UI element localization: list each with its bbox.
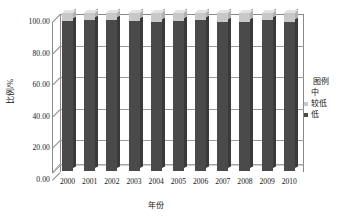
legend-item-label: 低 — [311, 109, 319, 120]
legend-marker-icon — [304, 102, 308, 106]
bar-segment-较低[interactable] — [84, 13, 95, 20]
legend-item[interactable]: 低 — [304, 109, 348, 120]
bar-segment-face — [173, 21, 184, 171]
bar-segment-低[interactable] — [84, 20, 95, 171]
bar-segment-face — [195, 13, 206, 20]
bar-segment-face — [129, 13, 140, 21]
bar-segment-side — [206, 16, 209, 168]
bar-segment-side — [184, 17, 187, 168]
bar-column[interactable] — [262, 13, 275, 171]
bar-segment-较低[interactable] — [239, 13, 250, 22]
bar-segment-较低[interactable] — [195, 13, 206, 20]
bar-segment-较低[interactable] — [129, 13, 140, 21]
bar-segment-face — [284, 13, 295, 22]
bar-segment-side — [140, 16, 143, 168]
bar-segment-低[interactable] — [262, 20, 273, 171]
bar-segment-较低[interactable] — [62, 13, 73, 21]
bar-segment-较低[interactable] — [106, 13, 117, 20]
y-axis-title: 比例/% — [4, 66, 15, 118]
bar-column[interactable] — [195, 13, 208, 171]
bar-segment-face — [239, 22, 250, 171]
bar-segment-side — [95, 15, 98, 168]
bar-segment-face — [106, 20, 117, 171]
bar-column[interactable] — [151, 13, 164, 171]
bar-column[interactable] — [173, 13, 186, 171]
legend-item-label: 较低 — [311, 98, 327, 109]
bar-segment-side — [117, 16, 120, 168]
bar-series-group — [52, 14, 304, 180]
bar-segment-face — [84, 20, 95, 171]
x-axis-tick-label: 2010 — [276, 177, 302, 186]
bar-segment-face — [151, 13, 162, 22]
bar-segment-低[interactable] — [217, 22, 228, 171]
bar-segment-face — [195, 20, 206, 171]
bar-segment-side — [250, 17, 253, 168]
bar-segment-低[interactable] — [106, 20, 117, 171]
y-axis-tick-label: 0.00 — [4, 176, 50, 184]
bar-segment-face — [151, 22, 162, 171]
chart-3d-stacked-column: 0.0020.0040.0060.0080.00100.00 比例/% 2000… — [0, 0, 348, 220]
bar-segment-较低[interactable] — [151, 13, 162, 22]
bar-segment-face — [262, 20, 273, 171]
bar-column[interactable] — [84, 13, 97, 171]
bar-segment-face — [284, 22, 295, 171]
bar-segment-face — [173, 13, 184, 21]
bar-segment-face — [84, 13, 95, 20]
bar-segment-较低[interactable] — [262, 13, 273, 20]
bar-segment-低[interactable] — [173, 21, 184, 171]
legend-item[interactable]: 较低 — [304, 98, 348, 109]
legend-item[interactable]: 中 — [304, 87, 348, 98]
bar-column[interactable] — [106, 13, 119, 171]
bar-segment-side — [295, 18, 298, 168]
bar-segment-较低[interactable] — [173, 13, 184, 21]
y-axis: 0.0020.0040.0060.0080.00100.00 比例/% — [0, 0, 50, 200]
bar-segment-低[interactable] — [284, 22, 295, 171]
bar-segment-face — [106, 13, 117, 20]
bar-segment-face — [62, 13, 73, 21]
bar-segment-face — [262, 13, 273, 20]
legend: 图例 中较低低 — [304, 76, 348, 120]
y-axis-tick-label: 100.00 — [4, 18, 50, 26]
bar-top-cap — [129, 10, 143, 13]
bar-column[interactable] — [129, 13, 142, 171]
bar-segment-低[interactable] — [195, 20, 206, 171]
y-axis-tick-label: 20.00 — [4, 144, 50, 152]
bar-segment-face — [217, 13, 228, 22]
bar-segment-side — [162, 17, 165, 168]
bar-segment-face — [239, 13, 250, 22]
bar-column[interactable] — [217, 13, 230, 171]
bar-column[interactable] — [284, 13, 297, 171]
bar-segment-较低[interactable] — [284, 13, 295, 22]
bar-segment-side — [228, 17, 231, 168]
bar-segment-face — [217, 22, 228, 171]
legend-marker-icon — [304, 113, 308, 117]
bar-segment-face — [129, 21, 140, 171]
bar-column[interactable] — [239, 13, 252, 171]
x-axis-title: 年份 — [148, 199, 164, 210]
legend-title: 图例 — [304, 76, 348, 87]
bar-segment-side — [73, 16, 76, 168]
y-axis-tick-label: 80.00 — [4, 50, 50, 58]
bar-segment-低[interactable] — [151, 22, 162, 171]
bar-segment-低[interactable] — [239, 22, 250, 171]
bar-segment-face — [62, 21, 73, 171]
legend-item-label: 中 — [311, 87, 319, 98]
bar-segment-side — [273, 16, 276, 168]
bar-column[interactable] — [62, 13, 75, 171]
bar-segment-低[interactable] — [62, 21, 73, 171]
bar-segment-较低[interactable] — [217, 13, 228, 22]
bar-segment-低[interactable] — [129, 21, 140, 171]
